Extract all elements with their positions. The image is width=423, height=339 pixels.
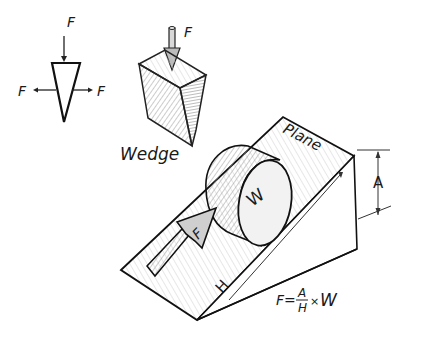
formula-times: × xyxy=(310,295,319,308)
top-force-label: F xyxy=(67,14,76,30)
formula-numerator: A xyxy=(297,286,306,300)
formula-denominator: H xyxy=(298,301,307,315)
simple-wedge-diagram: F F F xyxy=(18,14,106,122)
push-rod xyxy=(169,28,175,50)
formula-rhs: W xyxy=(320,290,338,310)
formula-lhs: F= xyxy=(276,292,296,308)
wedge-3d-illustration: F Wedge xyxy=(120,24,206,164)
simple-machines-diagram: F F F F Wedge H A P xyxy=(0,0,423,339)
height-label: A xyxy=(373,174,384,192)
wedge-force-label: F xyxy=(184,24,193,40)
left-force-label: F xyxy=(18,83,27,99)
wedge-triangle xyxy=(52,63,80,122)
wedge-caption: Wedge xyxy=(120,144,179,164)
right-force-label: F xyxy=(97,83,106,99)
formula: F= A H × W xyxy=(276,286,338,315)
